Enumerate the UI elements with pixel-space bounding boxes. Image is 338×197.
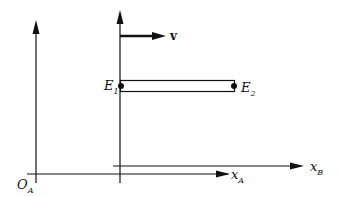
axis-b-sub: B [317, 168, 323, 177]
frame-a-horizontal-axis [27, 171, 230, 178]
axis-b-label: xB [310, 160, 323, 177]
diagram-lines [0, 0, 338, 197]
event-1-dot [118, 83, 124, 89]
event-2-sub: 2 [251, 89, 256, 98]
axis-a-sub: A [238, 176, 244, 185]
event-2-dot [231, 83, 237, 89]
axis-a-label: xA [231, 168, 244, 185]
frame-a-vertical-axis [33, 20, 40, 183]
rod [121, 81, 235, 92]
velocity-label: v [170, 30, 177, 42]
origin-a-sub: A [28, 186, 34, 195]
diagram: v E1 E2 OA xA xB [0, 0, 338, 197]
event-1-label: E1 [104, 79, 119, 96]
event-2-label: E2 [241, 81, 256, 98]
velocity-arrow [120, 32, 166, 40]
event-1-sub: 1 [114, 87, 119, 96]
frame-b-horizontal-axis [113, 163, 304, 170]
origin-a-label: OA [17, 178, 33, 195]
event-2-main: E [241, 80, 251, 95]
origin-a-main: O [17, 177, 28, 192]
event-1-main: E [104, 78, 114, 93]
